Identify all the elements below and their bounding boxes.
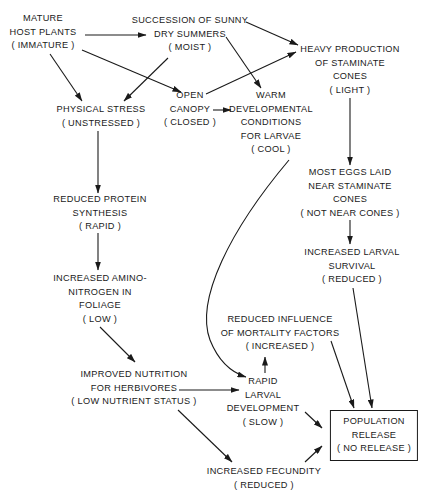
edge-amino-to-nutrition xyxy=(100,327,135,362)
node-open-canopy: OPEN CANOPY ( CLOSED ) xyxy=(164,89,216,130)
edge-mature-to-stress xyxy=(50,54,82,101)
node-most-eggs-laid: MOST EGGS LAID NEAR STAMINATE CONES ( NO… xyxy=(300,166,399,220)
node-increased-amino-nitrogen: INCREASED AMINO- NITROGEN IN FOLIAGE ( L… xyxy=(53,272,147,326)
node-rapid-larval-development: RAPID LARVAL DEVELOPMENT ( SLOW ) xyxy=(227,375,300,429)
edge-rapid-to-population xyxy=(305,412,322,428)
edge-canopy-to-cones xyxy=(206,52,296,94)
edge-nutrition-to-fecundity xyxy=(178,410,232,462)
node-increased-fecundity: INCREASED FECUNDITY ( REDUCED ) xyxy=(207,465,321,492)
node-reduced-protein-synthesis: REDUCED PROTEIN SYNTHESIS ( RAPID ) xyxy=(53,193,146,234)
node-increased-larval-survival: INCREASED LARVAL SURVIVAL ( REDUCED ) xyxy=(304,246,399,287)
node-physical-stress: PHYSICAL STRESS ( UNSTRESSED ) xyxy=(57,103,146,130)
node-population-release: POPULATION RELEASE ( NO RELEASE ) xyxy=(330,410,418,461)
edge-survival-to-population xyxy=(353,288,372,408)
node-succession-sunny-summers: SUCCESSION OF SUNNY DRY SUMMERS ( MOIST … xyxy=(132,14,248,55)
edge-mature-to-canopy xyxy=(82,50,181,92)
node-mature-host-plants: MATURE HOST PLANTS ( IMMATURE ) xyxy=(10,12,77,53)
edge-summers-to-cones xyxy=(246,22,298,45)
edge-summers-to-stress xyxy=(124,58,168,101)
node-warm-developmental-conditions: WARM DEVELOPMENTAL CONDITIONS FOR LARVAE… xyxy=(229,89,313,157)
node-reduced-influence-mortality: REDUCED INFLUENCE OF MORTALITY FACTORS (… xyxy=(221,313,340,354)
edge-fecundity-to-population xyxy=(305,446,322,462)
node-heavy-production-staminate-cones: HEAVY PRODUCTION OF STAMINATE CONES ( LI… xyxy=(300,43,399,97)
node-improved-nutrition: IMPROVED NUTRITION FOR HERBIVORES ( LOW … xyxy=(71,368,196,409)
